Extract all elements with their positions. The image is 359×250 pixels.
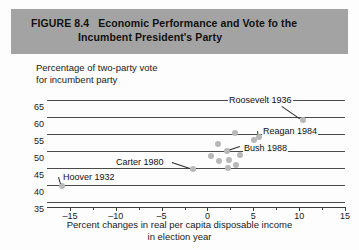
data-point [216, 158, 222, 164]
data-point [233, 162, 239, 168]
x-axis-line [47, 207, 345, 208]
x-tick-minor [93, 207, 94, 210]
x-axis-caption: Percent changes in real per capita dispo… [0, 219, 359, 242]
data-point-hoover-1932 [59, 183, 65, 189]
gridline-y-65 [47, 100, 345, 101]
gridline-y-35 [47, 202, 345, 203]
figure-header-band: FIGURE 8.4 Economic Performance and Vote… [11, 9, 348, 54]
y-tick-label-60: 60 [30, 119, 44, 129]
gridline-y-40 [47, 185, 345, 186]
y-tick-label-45: 45 [30, 170, 44, 180]
y-tick-label-65: 65 [30, 102, 44, 112]
annotation-hoover-1932: Hoover 1932 [62, 172, 116, 182]
data-point [226, 157, 232, 163]
data-point-carter-1980 [190, 166, 196, 172]
annotation-bush-1988: Bush 1988 [243, 143, 288, 153]
data-point [232, 130, 238, 136]
data-point [225, 165, 231, 171]
data-point [208, 153, 214, 159]
figure-title-line-2: Incumbent President's Party [31, 30, 331, 44]
figure-title: FIGURE 8.4 Economic Performance and Vote… [31, 16, 331, 44]
data-point [215, 141, 221, 147]
data-point-roosevelt-1936 [300, 117, 306, 123]
x-axis-caption-line-2: in election year [0, 231, 359, 243]
x-tick-minor [276, 207, 277, 210]
y-tick-label-50: 50 [30, 153, 44, 163]
figure-title-line-1: FIGURE 8.4 Economic Performance and Vote… [31, 16, 331, 30]
gridline-y-45 [47, 168, 345, 169]
y-tick-label-35: 35 [30, 204, 44, 214]
annotation-carter-1980: Carter 1980 [115, 157, 165, 167]
figure-container: FIGURE 8.4 Economic Performance and Vote… [0, 0, 359, 250]
x-tick-minor [230, 207, 231, 210]
y-axis-caption-line-2: for incumbent party [36, 74, 157, 86]
y-axis-caption-line-1: Percentage of two-party vote [36, 62, 157, 74]
plot-area [47, 100, 345, 202]
x-tick-minor [139, 207, 140, 210]
x-tick-minor [185, 207, 186, 210]
gridline-y-50 [47, 151, 345, 152]
y-tick-label-40: 40 [30, 187, 44, 197]
annotation-roosevelt-1936: Roosevelt 1936 [228, 95, 293, 105]
figure-number: FIGURE 8.4 [31, 17, 89, 29]
data-point-reagan-1984 [256, 134, 262, 140]
y-axis-caption: Percentage of two-party vote for incumbe… [36, 62, 157, 85]
leader-line-reagan-1984 [257, 131, 258, 134]
y-tick-label-55: 55 [30, 136, 44, 146]
annotation-reagan-1984: Reagan 1984 [262, 126, 318, 136]
figure-title-text-1: Economic Performance and Vote fo the [98, 17, 297, 29]
x-axis-caption-line-1: Percent changes in real per capita dispo… [0, 219, 359, 231]
x-tick-minor [322, 207, 323, 210]
